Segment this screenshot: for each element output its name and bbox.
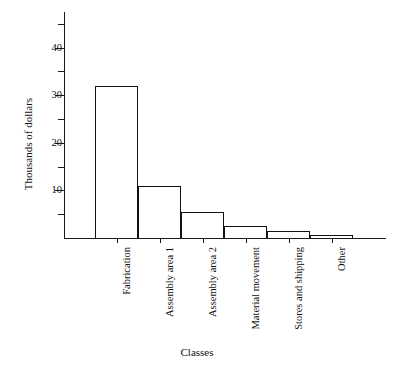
bar: [181, 212, 224, 238]
category-label: Fabrication: [121, 247, 132, 357]
y-tick-minor: [58, 24, 65, 25]
x-tick: [332, 239, 333, 243]
category-label: Assembly area 1: [164, 247, 175, 357]
y-axis-title: Thousands of dollars: [22, 69, 34, 219]
x-tick: [160, 239, 161, 243]
x-tick: [246, 239, 247, 243]
y-tick-minor: [58, 214, 65, 215]
y-tick-label: 30: [36, 90, 62, 100]
y-tick-label: 40: [36, 43, 62, 53]
bar: [224, 226, 267, 238]
category-label: Stores and shipping: [293, 247, 304, 357]
y-tick-minor: [58, 167, 65, 168]
x-tick: [203, 239, 204, 243]
y-axis-line: [64, 12, 65, 239]
x-axis-title: Classes: [0, 346, 394, 358]
bar: [138, 186, 181, 238]
x-axis-line: [64, 238, 386, 239]
category-label: Material movement: [250, 247, 261, 357]
y-tick-minor: [58, 119, 65, 120]
bar-chart: 10203040 FabricationAssembly area 1Assem…: [0, 0, 394, 373]
y-tick-minor: [58, 71, 65, 72]
y-tick-label: 20: [36, 138, 62, 148]
x-tick: [289, 239, 290, 243]
category-label: Assembly area 2: [207, 247, 218, 357]
x-tick: [117, 239, 118, 243]
bar: [267, 231, 310, 238]
category-label: Other: [336, 247, 347, 357]
bar: [95, 86, 138, 238]
y-tick-label: 10: [36, 185, 62, 195]
bar: [310, 235, 353, 238]
